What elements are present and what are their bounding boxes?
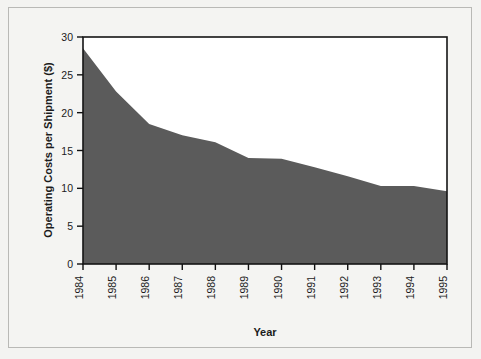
- x-tick-label: 1986: [139, 276, 151, 300]
- y-tick-label: 0: [67, 258, 73, 270]
- x-tick-label: 1995: [437, 276, 449, 300]
- x-tick-label: 1992: [338, 276, 350, 300]
- x-tick-label: 1984: [73, 276, 85, 300]
- x-tick-label: 1987: [172, 276, 184, 300]
- y-tick-label: 15: [61, 145, 73, 157]
- y-tick-label: 10: [61, 182, 73, 194]
- y-axis-title: Operating Costs per Shipment ($): [42, 62, 54, 238]
- area-chart: 051015202530 198419851986198719881989199…: [0, 0, 481, 359]
- y-tick-label: 30: [61, 31, 73, 43]
- y-tick-label: 25: [61, 69, 73, 81]
- x-tick-label: 1989: [238, 276, 250, 300]
- x-tick-label: 1993: [371, 276, 383, 300]
- x-tick-label: 1991: [305, 276, 317, 300]
- y-tick-label: 5: [67, 220, 73, 232]
- x-axis-title: Year: [253, 326, 277, 338]
- y-axis-tick-labels: 051015202530: [61, 31, 73, 270]
- x-axis-ticks: [83, 264, 447, 270]
- y-axis-ticks: [77, 37, 83, 264]
- x-tick-label: 1988: [205, 276, 217, 300]
- x-tick-label: 1985: [106, 276, 118, 300]
- x-tick-label: 1990: [272, 276, 284, 300]
- x-tick-label: 1994: [404, 276, 416, 300]
- chart-svg: 051015202530 198419851986198719881989199…: [0, 0, 481, 359]
- x-axis-tick-labels: 1984198519861987198819891990199119921993…: [73, 276, 449, 300]
- y-tick-label: 20: [61, 107, 73, 119]
- chart-page: 051015202530 198419851986198719881989199…: [0, 0, 481, 359]
